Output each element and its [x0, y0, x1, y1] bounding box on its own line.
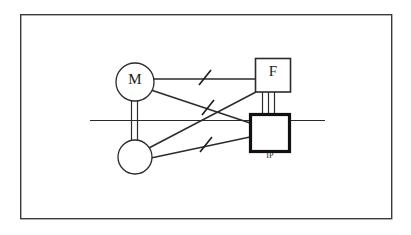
- node-lower-rotor-circle: [118, 140, 152, 174]
- node-ip-unit-box: [251, 115, 290, 152]
- diagram-root: M F IP: [0, 0, 411, 235]
- node-label-filter: F: [258, 64, 288, 79]
- node-label-motor: M: [120, 72, 150, 87]
- diagram-canvas: [0, 0, 411, 235]
- outer-border: [21, 15, 392, 219]
- node-label-ip-unit: IP: [254, 152, 286, 160]
